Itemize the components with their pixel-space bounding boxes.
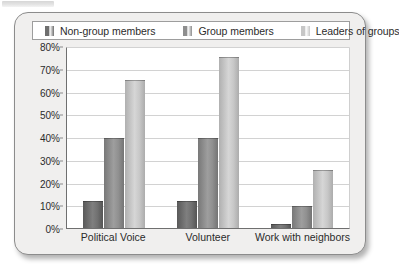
bar: [292, 206, 312, 229]
chart-panel: Non-group membersGroup membersLeaders of…: [14, 12, 366, 255]
legend-swatch-icon: [301, 26, 310, 36]
bar-top-edge: [313, 170, 333, 171]
bar-top-edge: [292, 206, 312, 207]
bar: [104, 138, 124, 228]
y-axis-tick-label: 20%: [40, 178, 60, 189]
y-axis-tick-label: 10%: [40, 201, 60, 212]
y-axis-tick-mark: [60, 115, 63, 116]
bar-top-edge: [125, 80, 145, 81]
y-axis-tick-mark: [60, 69, 63, 70]
bar-top-edge: [83, 201, 103, 202]
y-axis-tick-label: 80%: [40, 42, 60, 53]
bar-group: [67, 48, 161, 228]
bar: [271, 224, 291, 229]
bar-group: [161, 48, 255, 228]
bar: [198, 138, 218, 228]
y-axis-tick-mark: [60, 183, 63, 184]
bar: [313, 170, 333, 229]
bar-top-edge: [198, 138, 218, 139]
bar: [83, 201, 103, 228]
y-axis-tick-label: 70%: [40, 64, 60, 75]
legend-swatch-icon: [183, 26, 192, 36]
bar-group: [255, 48, 349, 228]
y-axis-tick-label: 50%: [40, 110, 60, 121]
top-edge-artifact: [2, 1, 54, 7]
legend-item: Group members: [183, 22, 273, 39]
bar-top-edge: [104, 138, 124, 139]
legend-swatch-icon: [45, 26, 54, 36]
bar: [177, 201, 197, 228]
x-axis-category-label: Work with neighbors: [255, 231, 350, 243]
legend-label: Non-group members: [60, 25, 155, 37]
bar: [219, 57, 239, 228]
y-axis-tick-mark: [60, 229, 63, 230]
plot-area: [66, 47, 350, 229]
chart-legend: Non-group membersGroup membersLeaders of…: [32, 21, 350, 40]
bar-top-edge: [177, 201, 197, 202]
legend-label: Group members: [198, 25, 273, 37]
plot-area-wrapper: 0%10%20%30%40%50%60%70%80%: [32, 47, 350, 229]
y-axis-tick-mark: [60, 160, 63, 161]
y-axis: 0%10%20%30%40%50%60%70%80%: [32, 47, 63, 229]
bar-top-edge: [219, 57, 239, 58]
bar: [125, 80, 145, 229]
legend-item: Non-group members: [45, 22, 155, 39]
y-axis-tick-label: 30%: [40, 155, 60, 166]
y-axis-tick-label: 60%: [40, 87, 60, 98]
legend-item: Leaders of groups: [301, 22, 399, 39]
y-axis-tick-mark: [60, 138, 63, 139]
y-axis-tick-mark: [60, 92, 63, 93]
bar-groups: [67, 48, 349, 228]
x-axis-category-label: Volunteer: [161, 231, 256, 243]
bar-top-edge: [271, 224, 291, 225]
y-axis-tick-mark: [60, 47, 63, 48]
y-axis-tick-label: 0%: [46, 224, 60, 235]
x-axis-category-label: Political Voice: [66, 231, 161, 243]
legend-label: Leaders of groups: [316, 25, 399, 37]
x-axis: Political VoiceVolunteerWork with neighb…: [66, 231, 350, 243]
y-axis-tick-label: 40%: [40, 133, 60, 144]
y-axis-tick-mark: [60, 206, 63, 207]
